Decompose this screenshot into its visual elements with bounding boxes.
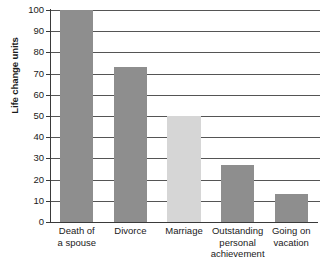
x-axis-category-label-line: achievement xyxy=(205,248,271,260)
x-axis-category-labels: Death ofa spouseDivorceMarriageOutstandi… xyxy=(50,225,324,271)
bar xyxy=(221,165,254,222)
y-axis-tick-label: 20 xyxy=(16,175,44,185)
x-axis-category-label: Going onvacation xyxy=(258,225,324,248)
y-axis-tick-label: 30 xyxy=(16,154,44,164)
x-axis-line xyxy=(50,222,318,223)
y-axis-tick-label: 10 xyxy=(16,196,44,206)
x-axis-category-label-line: Going on xyxy=(258,225,324,237)
bar xyxy=(167,116,200,222)
x-axis-category-label-line: vacation xyxy=(258,237,324,249)
y-axis-tick-label: 0 xyxy=(16,217,44,227)
x-axis-category-label-line: a spouse xyxy=(44,237,110,249)
bar xyxy=(114,67,147,222)
y-axis-tick-labels: 0102030405060708090100 xyxy=(16,0,44,232)
y-axis-tick-label: 100 xyxy=(16,5,44,15)
y-axis-tick-label: 60 xyxy=(16,90,44,100)
bar-chart: Life change units 0102030405060708090100… xyxy=(0,0,324,272)
bar xyxy=(275,194,308,222)
y-axis-tick-label: 70 xyxy=(16,69,44,79)
y-axis-tick-label: 80 xyxy=(16,48,44,58)
y-axis-tick-label: 90 xyxy=(16,26,44,36)
bar xyxy=(60,10,93,222)
y-axis-tick-label: 50 xyxy=(16,111,44,121)
y-axis-tick-label: 40 xyxy=(16,132,44,142)
bar-series xyxy=(50,0,318,222)
